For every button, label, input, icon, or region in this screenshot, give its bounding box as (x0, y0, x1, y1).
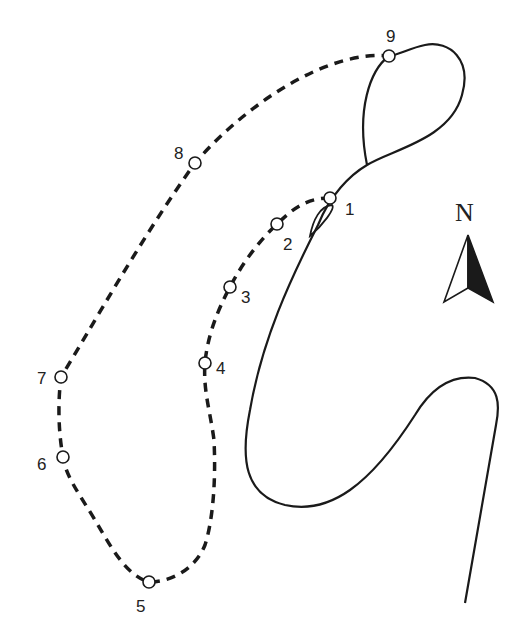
waypoint-label-2: 2 (283, 235, 292, 254)
north-arrow: N (444, 198, 493, 302)
waypoint-label-3: 3 (241, 288, 250, 307)
waypoint-label-6: 6 (37, 455, 46, 474)
dashed-route-line (59, 56, 389, 582)
small-loop-line (310, 205, 333, 236)
waypoint-label-1: 1 (345, 200, 354, 219)
waypoint-marker-9 (383, 50, 395, 62)
route-map: 123456789 N (0, 0, 512, 621)
waypoint-label-9: 9 (386, 27, 395, 46)
waypoint-label-4: 4 (216, 359, 225, 378)
waypoint-marker-1 (324, 192, 336, 204)
waypoint-marker-8 (189, 157, 201, 169)
waypoint-marker-4 (199, 357, 211, 369)
north-label: N (455, 198, 474, 227)
waypoint-marker-5 (143, 576, 155, 588)
waypoint-marker-3 (224, 281, 236, 293)
waypoint-marker-2 (271, 218, 283, 230)
north-arrow-right-half (468, 235, 493, 302)
waypoint-marker-7 (55, 371, 67, 383)
waypoint-label-8: 8 (174, 144, 183, 163)
solid-track-line (246, 44, 498, 603)
waypoint-label-5: 5 (136, 597, 145, 616)
waypoint-marker-6 (57, 451, 69, 463)
north-arrow-left-half (444, 235, 468, 302)
waypoint-label-7: 7 (37, 369, 46, 388)
